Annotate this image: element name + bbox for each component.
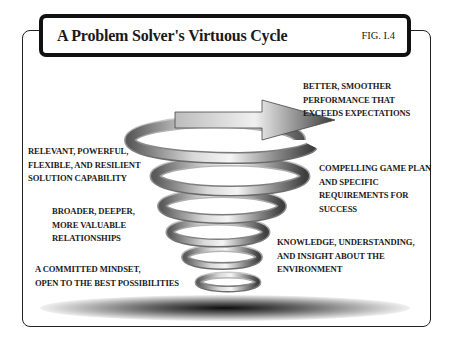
label-better-performance: BETTER, SMOOTHER PERFORMANCE THAT EXCEED…: [303, 80, 410, 121]
coil-4: [162, 193, 282, 219]
coil-1: [198, 275, 258, 289]
label-solution-capability: RELEVANT, POWERFUL, FLEXIBLE, AND RESILI…: [28, 145, 141, 186]
coil-5: [155, 161, 305, 191]
label-committed-mindset: A COMMITTED MINDSET, OPEN TO THE BEST PO…: [35, 263, 179, 290]
coil-2: [185, 248, 259, 266]
label-relationships: BROADER, DEEPER, MORE VALUABLE RELATIONS…: [52, 205, 135, 246]
label-game-plan: COMPELLING GAME PLAN AND SPECIFIC REQUIR…: [319, 162, 431, 216]
coil-3: [170, 221, 266, 243]
label-knowledge: KNOWLEDGE, UNDERSTANDING, AND INSIGHT AB…: [277, 236, 414, 277]
